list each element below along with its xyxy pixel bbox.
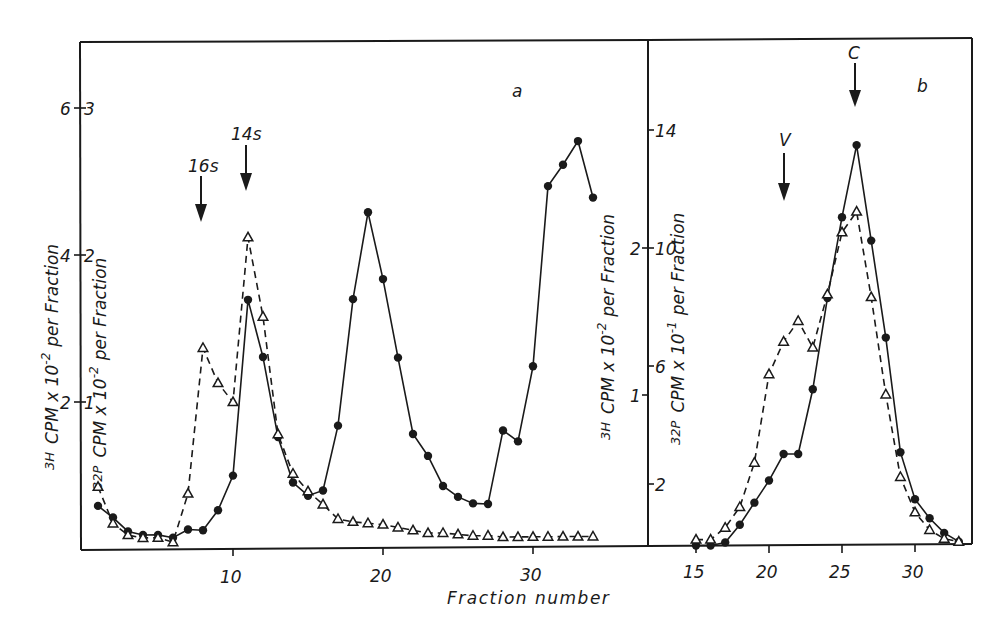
data-point-circle bbox=[334, 421, 342, 429]
panel-b-ylabel-3h: 3HCPM x 10-2per Fraction bbox=[595, 214, 618, 440]
panel-a-x-ticks: 10 20 30 bbox=[220, 546, 542, 587]
tick-3h-6: 6 bbox=[60, 99, 71, 119]
data-point-circle bbox=[559, 161, 567, 169]
data-point-triangle bbox=[925, 525, 935, 534]
data-point-circle bbox=[409, 430, 417, 438]
svg-text:32PCPM x 10-2per Fraction: 32PCPM x 10-2per Fraction bbox=[87, 258, 110, 490]
data-point-circle bbox=[529, 362, 537, 370]
data-point-triangle bbox=[823, 289, 833, 298]
x-tick-20: 20 bbox=[370, 566, 392, 586]
panel-a-y-ticks: 2 1 4 2 6 3 bbox=[60, 99, 95, 413]
data-point-circle bbox=[454, 493, 462, 501]
data-point-circle bbox=[319, 486, 327, 494]
panel-label-b: b bbox=[917, 76, 928, 96]
data-point-triangle bbox=[243, 232, 253, 241]
panel-b-x-ticks: 15 20 25 30 bbox=[683, 544, 924, 582]
arrow-16s: 16s bbox=[188, 156, 219, 222]
data-point-circle bbox=[794, 450, 802, 458]
data-point-triangle bbox=[808, 342, 818, 351]
data-point-circle bbox=[439, 482, 447, 490]
data-point-triangle bbox=[706, 535, 716, 544]
panel-label-a: a bbox=[512, 81, 522, 101]
tick-32p-3: 3 bbox=[84, 99, 95, 119]
arrow-V: V bbox=[778, 130, 792, 201]
data-series bbox=[93, 137, 963, 550]
data-point-circle bbox=[94, 502, 102, 510]
data-point-circle bbox=[779, 450, 787, 458]
data-point-circle bbox=[244, 296, 252, 304]
panel-a-ylabel-32p: 32PCPM x 10-2per Fraction bbox=[87, 258, 110, 490]
panel-a-x-axis bbox=[81, 546, 648, 550]
series-b-3h bbox=[692, 141, 963, 550]
data-point-triangle bbox=[735, 502, 745, 511]
data-point-triangle bbox=[198, 343, 208, 352]
data-point-circle bbox=[896, 448, 904, 456]
b-tick-3h-2: 2 bbox=[630, 239, 641, 259]
data-point-triangle bbox=[183, 489, 193, 498]
data-point-circle bbox=[364, 208, 372, 216]
data-point-triangle bbox=[483, 531, 493, 540]
b-tick-32p-6: 6 bbox=[655, 357, 666, 377]
x-tick-30: 30 bbox=[520, 565, 542, 585]
data-point-circle bbox=[925, 514, 933, 522]
data-point-triangle bbox=[303, 486, 313, 495]
data-point-triangle bbox=[750, 458, 760, 467]
series-a-3h bbox=[94, 137, 597, 542]
data-point-circle bbox=[765, 476, 773, 484]
data-point-circle bbox=[259, 353, 267, 361]
data-point-circle bbox=[394, 353, 402, 361]
data-point-circle bbox=[214, 506, 222, 514]
data-point-circle bbox=[289, 478, 297, 486]
chart-figure: 2 1 4 2 6 3 10 20 30 1 2 2 6 10 14 15 20… bbox=[0, 0, 1005, 634]
svg-text:C: C bbox=[848, 43, 860, 63]
data-point-triangle bbox=[363, 518, 373, 527]
chart-frame bbox=[80, 38, 972, 550]
x-tick-10: 10 bbox=[220, 567, 242, 587]
b-x-tick-30: 30 bbox=[902, 562, 924, 582]
data-point-triangle bbox=[273, 429, 283, 438]
data-point-triangle bbox=[910, 507, 920, 516]
series-b-32p bbox=[691, 207, 963, 546]
data-point-circle bbox=[424, 452, 432, 460]
b-tick-3h-1: 1 bbox=[630, 386, 641, 406]
data-point-circle bbox=[589, 193, 597, 201]
data-point-circle bbox=[199, 526, 207, 534]
data-point-triangle bbox=[258, 312, 268, 321]
data-point-triangle bbox=[793, 316, 803, 325]
data-point-triangle bbox=[764, 369, 774, 378]
data-point-circle bbox=[349, 295, 357, 303]
svg-text:32PCPM x 10-1per Fraction: 32PCPM x 10-1per Fraction bbox=[665, 213, 688, 445]
svg-text:V: V bbox=[779, 130, 792, 150]
data-point-circle bbox=[867, 236, 875, 244]
data-point-circle bbox=[750, 498, 758, 506]
panel-a-ylabel-3h: 3HCPM x 10-2per Fraction bbox=[39, 244, 62, 470]
data-point-triangle bbox=[852, 207, 862, 216]
data-point-triangle bbox=[779, 337, 789, 346]
data-point-circle bbox=[514, 437, 522, 445]
data-point-circle bbox=[229, 471, 237, 479]
data-point-circle bbox=[379, 275, 387, 283]
svg-text:3HCPM x 10-2per Fraction: 3HCPM x 10-2per Fraction bbox=[39, 244, 62, 470]
data-point-circle bbox=[911, 495, 919, 503]
b-tick-32p-2: 2 bbox=[655, 475, 666, 495]
data-point-triangle bbox=[408, 525, 418, 534]
panel-b-ylabel-32p: 32PCPM x 10-1per Fraction bbox=[665, 213, 688, 445]
svg-text:3HCPM x 10-2per Fraction: 3HCPM x 10-2per Fraction bbox=[595, 214, 618, 440]
b-x-tick-25: 25 bbox=[829, 562, 851, 582]
data-point-circle bbox=[736, 521, 744, 529]
data-point-circle bbox=[809, 385, 817, 393]
x-axis-label: Fraction number bbox=[447, 588, 610, 608]
data-point-triangle bbox=[213, 378, 223, 387]
series-a-32p bbox=[93, 232, 598, 545]
data-point-circle bbox=[499, 426, 507, 434]
data-point-circle bbox=[184, 525, 192, 533]
data-point-triangle bbox=[866, 292, 876, 301]
data-point-circle bbox=[852, 141, 860, 149]
data-point-triangle bbox=[588, 531, 598, 540]
data-point-circle bbox=[469, 499, 477, 507]
b-tick-32p-14: 14 bbox=[655, 121, 677, 141]
b-x-tick-15: 15 bbox=[683, 562, 705, 582]
arrow-14s: 14s bbox=[231, 124, 262, 191]
panel-a-y-axis bbox=[80, 42, 81, 550]
data-point-circle bbox=[882, 333, 890, 341]
